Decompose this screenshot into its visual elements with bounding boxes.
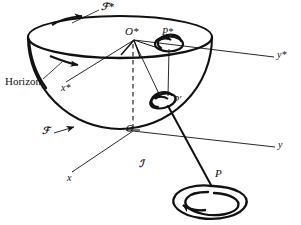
axis-x bbox=[72, 131, 133, 172]
label-surface-star: ℱ* bbox=[101, 2, 114, 12]
label-origin: O bbox=[126, 124, 133, 134]
label-surface: ℱ bbox=[42, 126, 50, 136]
hemisphere-bowl bbox=[28, 37, 212, 129]
label-horizon: Horizon bbox=[5, 76, 41, 87]
label-point: P bbox=[215, 168, 222, 179]
diagram-canvas bbox=[0, 0, 301, 225]
leader-horizon bbox=[43, 62, 62, 79]
rim-direction-arrow-lower bbox=[50, 56, 78, 65]
label-point-image: P′ bbox=[173, 95, 181, 105]
label-axis-x-star: x* bbox=[61, 83, 70, 93]
label-axis-x: x bbox=[67, 173, 71, 183]
vortex-loop-P bbox=[173, 185, 246, 218]
figure-root: ℱ* Horizon x* O* P* y* P′ O ℱ y ℐ x P bbox=[0, 0, 301, 225]
label-axis-y-star: y* bbox=[277, 50, 286, 60]
label-point-star: P* bbox=[162, 27, 173, 37]
leader-surface bbox=[54, 127, 74, 133]
ray-origin-star-to-P-prime bbox=[134, 41, 160, 96]
label-axis-y: y bbox=[278, 140, 282, 150]
axis-y bbox=[133, 131, 275, 147]
ray-P-prime-to-P bbox=[168, 106, 211, 185]
axis-x-star bbox=[66, 40, 134, 82]
label-region: ℐ bbox=[139, 159, 144, 169]
label-origin-star: O* bbox=[125, 26, 138, 37]
